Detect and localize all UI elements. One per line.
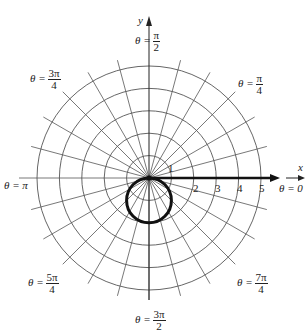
radial-line: [31, 146, 149, 178]
ring-tick-3: 3: [215, 183, 221, 194]
radial-line: [31, 178, 149, 210]
angle-label-pi-over-2: θ =π2: [135, 30, 160, 53]
ring-tick-4: 4: [237, 183, 243, 194]
radial-line: [117, 60, 149, 178]
ring-tick-5: 5: [259, 183, 265, 194]
radial-line: [149, 178, 210, 284]
radial-line: [117, 178, 149, 296]
radial-line: [88, 72, 149, 178]
radial-line: [149, 72, 210, 178]
ring-tick-1: 1: [168, 163, 174, 174]
radial-line: [43, 117, 149, 178]
polar-graph: y x θ =π2 θ =3π4 θ =π4 θ = π θ = 0 θ =5π…: [0, 0, 307, 336]
polar-axis-arrow-icon: [270, 174, 280, 182]
radial-line: [149, 178, 181, 296]
radial-line: [149, 60, 181, 178]
radial-line: [149, 146, 267, 178]
y-axis-arrow-icon: [146, 16, 152, 26]
radial-line: [149, 178, 267, 210]
angle-label-3pi-over-2: θ =3π2: [135, 309, 166, 332]
x-axis-arrow-icon: [298, 175, 305, 181]
radial-line: [43, 178, 149, 239]
ring-tick-2: 2: [193, 183, 199, 194]
pole: [147, 176, 152, 181]
angle-label-zero: θ = 0: [279, 183, 303, 194]
angle-label-5pi-over-4: θ =5π4: [28, 272, 59, 295]
radial-line: [88, 178, 149, 284]
radial-line: [149, 117, 255, 178]
x-axis-label: x: [298, 162, 303, 173]
angle-label-pi-over-4: θ =π4: [238, 73, 263, 96]
angle-label-7pi-over-4: θ =7π4: [237, 272, 268, 295]
y-axis-label: y: [138, 15, 143, 26]
angle-label-pi: θ = π: [4, 180, 28, 191]
angle-label-3pi-over-4: θ =3π4: [30, 68, 61, 91]
